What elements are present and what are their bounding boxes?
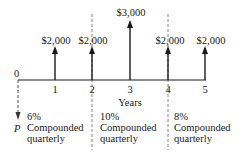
cash-flow-arrow-5	[202, 46, 208, 80]
rate-value: 6%	[27, 111, 84, 122]
present-value-arrow	[16, 80, 21, 120]
rate-compounding-line2: quarterly	[100, 133, 157, 144]
present-value-label: P	[14, 123, 20, 134]
amount-label-3: $3,000	[117, 7, 146, 18]
rate-compounding-line2: quarterly	[174, 133, 231, 144]
rate-value: 10%	[100, 111, 157, 122]
cash-flow-arrow-3	[127, 20, 133, 80]
cash-flow-arrow-2	[89, 46, 95, 80]
rate-compounding-line1: Compounded	[174, 122, 231, 133]
year-tick-4: 4	[165, 84, 170, 95]
year-tick-3: 3	[127, 84, 132, 95]
rate-compounding-line1: Compounded	[27, 122, 84, 133]
rate-note-segment-2: 10% Compounded quarterly	[100, 111, 157, 144]
year-tick-5: 5	[202, 84, 207, 95]
rate-value: 8%	[174, 111, 231, 122]
year-tick-1: 1	[52, 84, 57, 95]
cash-flow-arrow-1	[52, 46, 58, 80]
rate-compounding-line2: quarterly	[27, 133, 84, 144]
origin-label: 0	[14, 68, 19, 79]
rate-note-segment-3: 8% Compounded quarterly	[174, 111, 231, 144]
amount-label-1: $2,000	[42, 35, 71, 46]
amount-label-2: $2,000	[79, 35, 108, 46]
amount-label-4: $2,000	[156, 35, 185, 46]
cash-flow-arrow-4	[165, 46, 171, 80]
rate-note-segment-1: 6% Compounded quarterly	[27, 111, 84, 144]
amount-label-5: $2,000	[197, 35, 226, 46]
year-tick-2: 2	[89, 84, 94, 95]
rate-compounding-line1: Compounded	[100, 122, 157, 133]
axis-title: Years	[118, 97, 141, 108]
